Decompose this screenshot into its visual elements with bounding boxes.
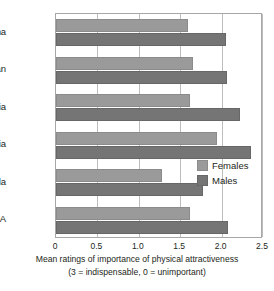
bar-bulgaria-males (56, 146, 251, 159)
gridline (262, 14, 263, 237)
x-tick-1.5: 1.5 (173, 241, 185, 251)
bar-usa-females (56, 207, 190, 220)
plot-area (55, 13, 262, 238)
x-tick-2.0: 2.0 (215, 241, 227, 251)
x-axis-title-note: (3 = indispensable, 0 = unimportant) (0, 267, 274, 277)
bar-china-females (56, 19, 188, 32)
legend-swatch-females-icon (197, 160, 208, 171)
category-label-iran: Iran (0, 63, 6, 74)
x-axis-title: Mean ratings of importance of physical a… (0, 254, 274, 264)
x-tick-0.5: 0.5 (90, 241, 102, 251)
bar-chart: ChinaIranZambiaBulgariaVenezuelaUSA 00.5… (0, 0, 274, 291)
bar-usa-males (56, 221, 228, 234)
category-label-usa: USA (0, 213, 6, 224)
bar-iran-males (56, 71, 227, 84)
bar-china-males (56, 33, 226, 46)
category-label-bulgaria: Bulgaria (0, 138, 6, 149)
legend-label-females: Females (212, 160, 248, 171)
x-tick-0: 0 (53, 241, 58, 251)
x-tick-1.0: 1.0 (132, 241, 144, 251)
bar-iran-females (56, 57, 193, 70)
category-label-zambia: Zambia (0, 101, 6, 112)
bar-venezuela-females (56, 169, 162, 182)
legend-swatch-males-icon (197, 175, 208, 186)
bars-layer (56, 14, 261, 237)
bar-zambia-females (56, 94, 190, 107)
legend-item-males: Males (197, 175, 248, 186)
legend-item-females: Females (197, 160, 248, 171)
x-tick-2.5: 2.5 (256, 241, 268, 251)
bar-zambia-males (56, 108, 240, 121)
bar-venezuela-males (56, 183, 203, 196)
category-label-china: China (0, 26, 6, 37)
bar-bulgaria-females (56, 132, 217, 145)
legend-label-males: Males (212, 175, 237, 186)
category-label-venezuela: Venezuela (0, 176, 6, 187)
legend: Females Males (197, 160, 248, 186)
